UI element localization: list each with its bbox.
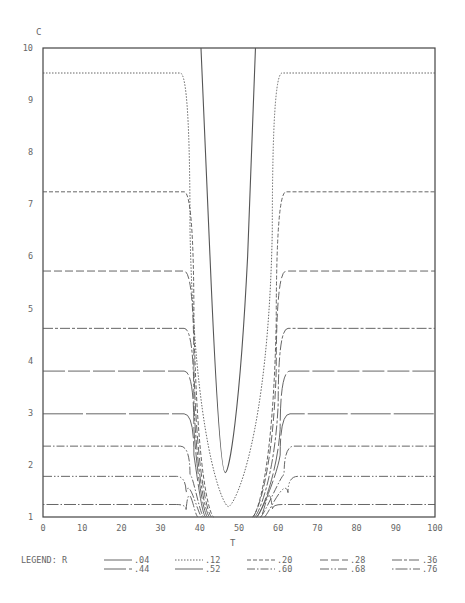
legend-label: .52 <box>205 564 220 574</box>
y-tick-label: 2 <box>28 460 33 470</box>
series-curve-r12 <box>43 73 435 507</box>
legend-label: .60 <box>277 564 292 574</box>
y-tick-label: 9 <box>28 95 33 105</box>
y-axis-ticks: 12345678910 <box>23 43 33 522</box>
y-tick-label: 7 <box>28 199 33 209</box>
x-tick-label: 30 <box>155 523 165 533</box>
y-axis-label: C <box>36 27 41 37</box>
x-tick-label: 50 <box>234 523 244 533</box>
series-curve-r60 <box>43 446 435 517</box>
series-curve-r44 <box>43 371 435 517</box>
x-tick-label: 40 <box>195 523 205 533</box>
series-curve-r04 <box>201 48 255 473</box>
x-axis-ticks: 0102030405060708090100 <box>40 523 442 533</box>
legend-title: LEGEND: R <box>21 555 68 565</box>
y-tick-label: 3 <box>28 408 33 418</box>
y-tick-label: 10 <box>23 43 33 53</box>
x-tick-label: 20 <box>116 523 126 533</box>
x-tick-label: 100 <box>427 523 442 533</box>
series-curve-r76 <box>43 496 435 517</box>
x-tick-label: 0 <box>40 523 45 533</box>
y-tick-label: 6 <box>28 251 33 261</box>
x-axis-label: T <box>230 538 236 548</box>
x-tick-label: 80 <box>351 523 361 533</box>
x-tick-label: 10 <box>77 523 87 533</box>
chart-canvas: C T 12345678910 0102030405060708090100 L… <box>0 0 465 603</box>
series-curve-r28 <box>43 271 435 517</box>
x-tick-label: 90 <box>391 523 401 533</box>
plot-frame <box>43 48 435 517</box>
x-tick-label: 70 <box>312 523 322 533</box>
x-tick-label: 60 <box>273 523 283 533</box>
series-curve-r68 <box>43 476 435 517</box>
chart: C T 12345678910 0102030405060708090100 L… <box>0 0 465 603</box>
y-tick-label: 1 <box>28 512 33 522</box>
y-tick-label: 5 <box>28 304 33 314</box>
legend-label: .68 <box>350 564 365 574</box>
series-curve-r52 <box>43 414 435 517</box>
plot-border <box>43 48 435 517</box>
legend: LEGEND: R .04.12.20.28.36.44.52.60.68.76 <box>21 555 437 574</box>
legend-label: .44 <box>134 564 149 574</box>
series-curve-r36 <box>43 328 435 517</box>
series-curves <box>43 48 435 517</box>
y-tick-label: 8 <box>28 147 33 157</box>
legend-label: .76 <box>422 564 437 574</box>
y-tick-label: 4 <box>28 356 33 366</box>
series-curve-r20 <box>43 192 435 517</box>
